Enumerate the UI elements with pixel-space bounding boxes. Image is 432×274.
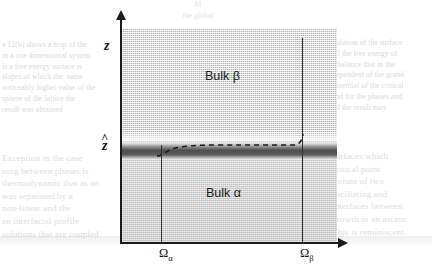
interfacial-profile-curve — [120, 28, 337, 242]
y-axis-arrowhead-icon — [116, 10, 126, 20]
tick-label-omega-beta: Ωβ — [300, 246, 314, 263]
tick-label-omega-alpha: Ωα — [159, 246, 173, 263]
bulk-alpha-label: Bulk α — [206, 186, 241, 200]
omega-subscript-left: α — [168, 253, 172, 263]
x-axis-line — [120, 242, 341, 244]
omega-symbol-left: Ω — [159, 246, 168, 260]
bulk-beta-label: Bulk β — [205, 69, 240, 83]
x-axis-arrowhead-icon — [338, 238, 348, 248]
y-axis-line — [120, 18, 122, 244]
interface-level-label: ^ z — [102, 138, 107, 154]
hat-accent-icon: ^ — [101, 132, 108, 144]
bulk-phase-interface-figure: z ^ z Bulk β Bulk α Ωα Ωβ — [0, 0, 432, 274]
y-axis-label: z — [104, 38, 109, 54]
omega-symbol-right: Ω — [300, 246, 309, 260]
omega-subscript-right: β — [309, 253, 313, 263]
plot-area — [120, 28, 337, 242]
